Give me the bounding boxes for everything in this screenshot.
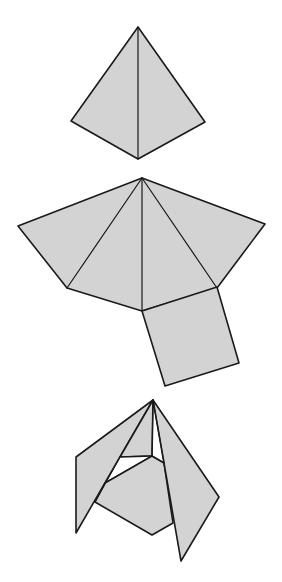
- pyramid-figure: [0, 0, 282, 582]
- pyramid-net: [18, 178, 265, 386]
- figure-caption-truncated: [8, 576, 278, 582]
- folding-pyramid: [76, 400, 219, 561]
- assembled-pyramid: [71, 27, 205, 159]
